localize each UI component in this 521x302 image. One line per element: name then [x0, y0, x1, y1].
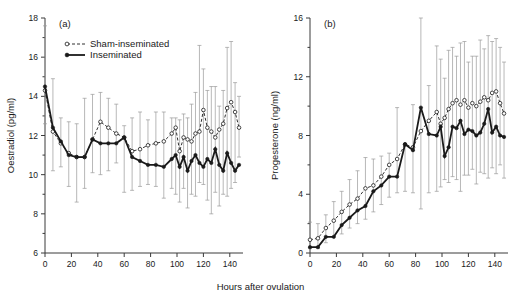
x-tick-label: 100 [435, 259, 449, 269]
legend: Sham-inseminatedInseminated [65, 38, 169, 60]
data-point-filled [162, 165, 165, 168]
data-point-open [324, 226, 328, 230]
data-point-open [154, 142, 158, 146]
data-point-open [340, 210, 344, 214]
data-point-open [478, 100, 482, 104]
error-bars-group [43, 26, 241, 214]
data-point-open [146, 143, 150, 147]
data-point-filled [439, 125, 442, 128]
y-tick-label: 10 [29, 170, 39, 180]
series-line-2 [310, 108, 504, 248]
data-point-filled [178, 165, 181, 168]
data-point-open [229, 100, 233, 104]
data-point-open [316, 237, 320, 241]
data-point-filled [494, 125, 497, 128]
data-point-open [138, 147, 142, 151]
data-point-open [364, 187, 368, 191]
data-point-open [186, 138, 190, 142]
data-point-open [471, 101, 475, 105]
data-point-open [490, 91, 494, 95]
data-point-filled [182, 155, 185, 158]
data-point-open [482, 96, 486, 100]
data-point-filled [83, 155, 86, 158]
data-point-filled [487, 107, 490, 110]
x-tick-label: 20 [332, 259, 342, 269]
chart-svg-a: 681012141618020406080100120140Oestradiol… [0, 0, 262, 302]
data-point-filled [170, 157, 173, 160]
data-point-open [221, 122, 225, 126]
data-point-filled [308, 245, 311, 248]
series-line-2 [45, 87, 239, 171]
data-point-filled [154, 163, 157, 166]
x-axis-title: Hours after ovulation [0, 276, 521, 294]
data-point-open [494, 90, 498, 94]
y-axis-title: Oestradiol (pg/ml) [5, 98, 16, 174]
chart-svg-b: 0481216020406080100120140Progesterone (n… [258, 0, 521, 302]
legend-label-inseminated: Inseminated [90, 49, 142, 60]
data-point-open [206, 126, 210, 130]
data-point-open [475, 104, 479, 108]
data-point-filled [411, 148, 414, 151]
data-point-filled [194, 153, 197, 156]
data-point-filled [395, 175, 398, 178]
data-point-filled [459, 119, 462, 122]
data-point-filled [332, 235, 335, 238]
data-point-filled [59, 140, 62, 143]
data-point-filled [198, 161, 201, 164]
x-tick-label: 120 [196, 259, 210, 269]
data-point-open [114, 132, 118, 136]
data-point-open [237, 126, 241, 130]
data-point-filled [138, 159, 141, 162]
data-point-filled [463, 132, 466, 135]
data-point-open [502, 112, 506, 116]
data-point-open [395, 157, 399, 161]
data-point-filled [123, 136, 126, 139]
data-point-open [443, 116, 447, 120]
data-point-filled [225, 151, 228, 154]
data-point-open [419, 129, 423, 133]
data-point-open [210, 130, 214, 134]
data-point-open [217, 128, 221, 132]
data-point-open [178, 149, 182, 153]
data-point-open [447, 107, 451, 111]
data-point-filled [174, 153, 177, 156]
legend-label-sham: Sham-inseminated [90, 38, 169, 49]
data-point-open [213, 136, 217, 140]
data-point-open [379, 175, 383, 179]
y-axis-title: Progesterone (ng/ml) [269, 91, 280, 180]
data-point-filled [210, 161, 213, 164]
chart-panel-b: 0481216020406080100120140Progesterone (n… [258, 0, 521, 302]
data-point-open [332, 219, 336, 223]
data-point-filled [75, 155, 78, 158]
chart-panel-a: 681012141618020406080100120140Oestradiol… [0, 0, 262, 302]
x-tick-label: 140 [488, 259, 502, 269]
data-point-open [387, 163, 391, 167]
x-tick-label: 0 [308, 259, 313, 269]
series-line-1 [310, 91, 504, 239]
data-point-open [459, 103, 463, 107]
data-point-open [182, 136, 186, 140]
data-point-filled [222, 169, 225, 172]
data-point-open [356, 197, 360, 201]
data-point-filled [130, 155, 133, 158]
data-point-filled [316, 245, 319, 248]
panel-label: (a) [59, 18, 71, 29]
legend-marker-inseminated [65, 53, 69, 57]
data-point-filled [455, 126, 458, 129]
data-point-filled [233, 169, 236, 172]
y-tick-label: 8 [298, 131, 303, 141]
y-tick-label: 16 [29, 52, 39, 62]
data-point-open [372, 184, 376, 188]
data-point-open [174, 126, 178, 130]
y-tick-label: 16 [294, 13, 304, 23]
data-point-filled [115, 142, 118, 145]
x-tick-label: 120 [461, 259, 475, 269]
data-point-filled [99, 142, 102, 145]
data-point-open [162, 140, 166, 144]
data-point-open [435, 110, 439, 114]
x-tick-label: 20 [67, 259, 77, 269]
data-point-open [198, 130, 202, 134]
data-point-open [498, 101, 502, 105]
data-point-open [348, 203, 352, 207]
y-tick-label: 14 [29, 91, 39, 101]
